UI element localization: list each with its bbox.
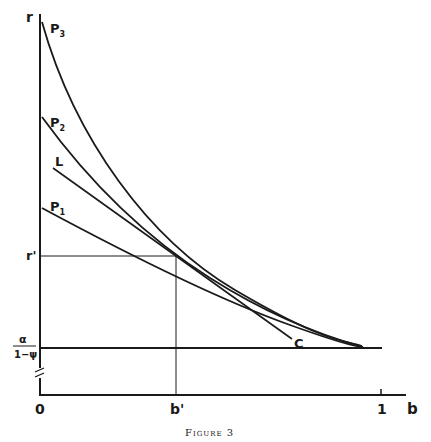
curve-p2 bbox=[42, 117, 363, 347]
figure-caption: Figure 3 bbox=[185, 427, 234, 438]
label-p3: P3 bbox=[50, 21, 65, 39]
b-prime-label: b' bbox=[170, 401, 184, 417]
x-axis-label: b bbox=[407, 400, 418, 418]
asymptote-numerator: α bbox=[19, 333, 27, 346]
label-l: L bbox=[55, 154, 63, 169]
figure-3-diagram: r b 0 1 b' r' α 1−ψ P3 P2 P1 L C Figure … bbox=[0, 0, 431, 442]
x-tick-one-label: 1 bbox=[377, 401, 387, 417]
curve-p1 bbox=[42, 208, 364, 348]
axis-break-icon bbox=[35, 368, 44, 377]
r-prime-label: r' bbox=[26, 248, 36, 263]
origin-label: 0 bbox=[35, 401, 45, 417]
asymptote-denominator: 1−ψ bbox=[14, 349, 37, 360]
line-l bbox=[53, 168, 292, 339]
label-c: C bbox=[294, 336, 304, 351]
curve-p3 bbox=[42, 22, 362, 346]
y-axis-label: r bbox=[26, 9, 33, 25]
